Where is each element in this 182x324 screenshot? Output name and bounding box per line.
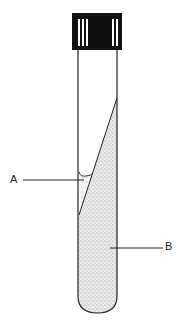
label-a: A xyxy=(10,174,17,185)
label-b: B xyxy=(165,241,172,252)
agar-medium xyxy=(78,98,117,320)
test-tube-diagram xyxy=(0,0,182,324)
screw-cap xyxy=(72,13,122,50)
